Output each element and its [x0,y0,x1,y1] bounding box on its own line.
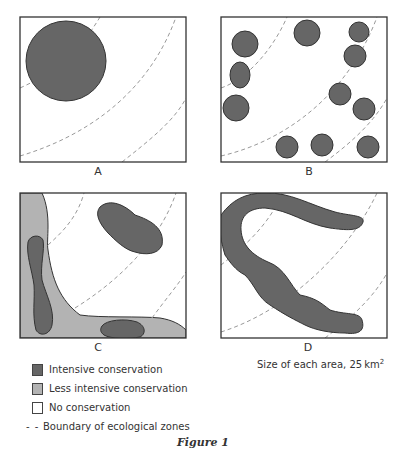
intensive-swatch-icon [32,364,43,376]
size-note-text: Size of each area, 25 km [257,359,380,370]
no-conservation-swatch-icon [32,402,43,414]
size-note: Size of each area, 25 km2 [257,358,384,370]
legend: Intensive conservation Less intensive co… [32,360,190,436]
legend-label: Boundary of ecological zones [43,421,190,432]
panel-d [220,193,387,338]
intensive-area [98,203,163,254]
panel-label-a: A [88,165,108,178]
panel-label-b: B [299,165,319,178]
size-note-superscript: 2 [380,358,384,366]
panel-b [221,17,387,162]
legend-item-boundary: - - Boundary of ecological zones [26,417,190,436]
legend-item-less-intensive: Less intensive conservation [32,379,190,398]
panel-a [20,17,186,162]
intensive-area [101,320,144,338]
legend-item-intensive: Intensive conservation [32,360,190,379]
legend-label: Intensive conservation [49,364,163,375]
dashed-line-icon: - - [26,421,43,432]
intensive-corridor [220,193,363,333]
legend-item-none: No conservation [32,398,190,417]
intensive-area [26,21,106,101]
figure-caption: Figure 1 [0,436,406,449]
legend-label: Less intensive conservation [49,383,188,394]
panel-label-c: C [88,341,108,354]
less-intensive-swatch-icon [32,383,43,395]
legend-label: No conservation [49,402,130,413]
panel-label-d: D [298,341,318,354]
intensive-areas [223,20,379,158]
panel-c [20,193,186,338]
